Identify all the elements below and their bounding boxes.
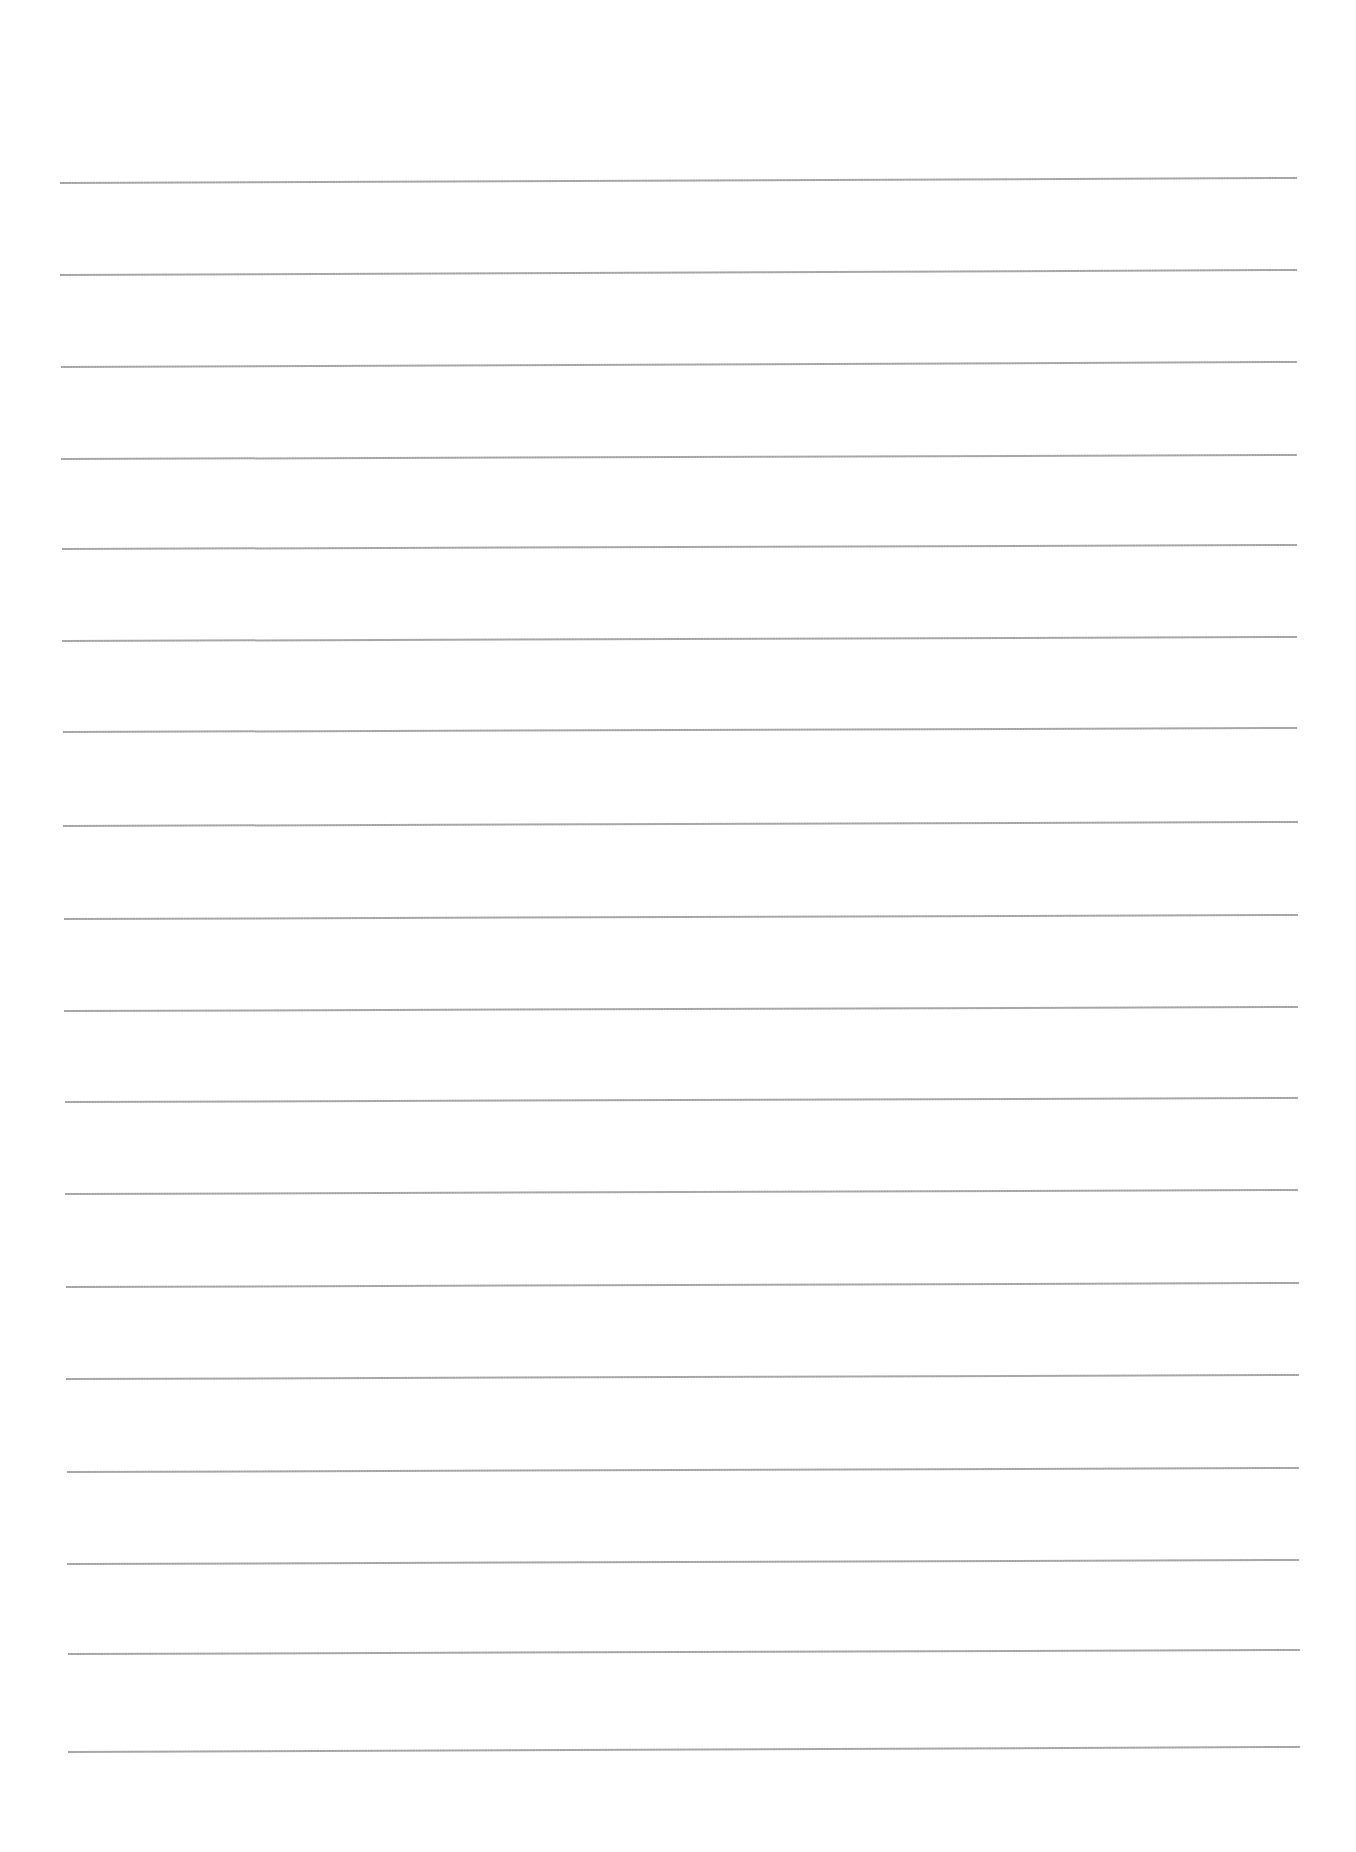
ruled-line — [63, 727, 1297, 733]
ruled-line — [64, 914, 1298, 920]
ruled-line — [62, 636, 1297, 642]
ruled-line — [63, 821, 1298, 827]
ruled-line — [64, 1006, 1298, 1012]
ruled-line — [67, 1559, 1299, 1565]
ruled-line — [67, 1467, 1299, 1473]
ruled-line — [65, 1097, 1298, 1103]
ruled-line — [60, 269, 1297, 276]
ruled-line — [66, 1374, 1299, 1380]
lined-paper-sheet — [0, 0, 1356, 1852]
ruled-line — [61, 361, 1297, 368]
ruled-line — [66, 1282, 1299, 1288]
ruled-line — [60, 177, 1297, 184]
ruled-line — [68, 1746, 1300, 1753]
ruled-line — [61, 454, 1297, 460]
ruled-line — [62, 544, 1297, 550]
ruled-line — [68, 1649, 1300, 1655]
ruled-line — [65, 1189, 1298, 1195]
